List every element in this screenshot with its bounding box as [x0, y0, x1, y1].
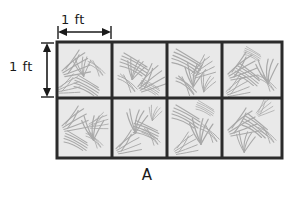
quadrat-cell-r0-c2 [167, 42, 222, 98]
vertical-dimension-label: 1 ft [9, 59, 33, 74]
plot-letter-caption: A [0, 166, 294, 184]
quadrat-cell-r0-c1 [112, 42, 167, 98]
quadrat-cell-r1-c1 [112, 98, 167, 158]
figure-container: 1 ft 1 ft A [0, 0, 294, 197]
horizontal-dimension-arrow [58, 26, 111, 39]
quadrat-cell-r1-c0 [57, 98, 112, 158]
quadrat-cell-r0-c0 [57, 42, 112, 98]
horizontal-dimension-label: 1 ft [61, 12, 85, 27]
quadrat-cell-r0-c3 [222, 42, 282, 98]
quadrat-cell-r1-c2 [167, 98, 222, 158]
quadrat-cell-r1-c3 [222, 97, 282, 158]
vertical-dimension-arrow [41, 43, 54, 97]
